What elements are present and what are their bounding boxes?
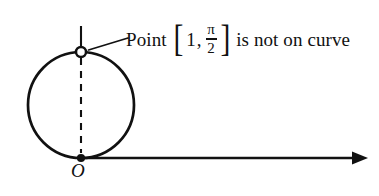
coordinate-separator: , <box>197 30 205 49</box>
coordinate-theta-fraction: π 2 <box>205 22 220 55</box>
annotation-text: Point [ 1 , π 2 ] is not on curve <box>126 19 350 59</box>
coordinate-r-value: 1 <box>184 30 197 49</box>
origin-label: O <box>71 161 85 180</box>
annotation-prefix-label: Point <box>126 30 167 49</box>
annotation-suffix-label: is not on curve <box>236 30 350 49</box>
fraction-numerator: π <box>207 22 215 38</box>
bracket-close: ] <box>220 23 230 53</box>
excluded-point-marker <box>76 47 86 57</box>
fraction-denominator: 2 <box>207 40 215 56</box>
bracket-open: [ <box>174 23 184 53</box>
polar-coordinate-pair: [ 1 , π 2 ] <box>173 22 232 55</box>
